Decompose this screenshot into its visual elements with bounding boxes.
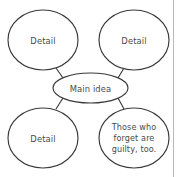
- connector-main-to-bottom-right: [118, 98, 124, 109]
- connector-main-to-top-right: [118, 68, 124, 78]
- node-detail-top-right[interactable]: Detail: [99, 10, 169, 70]
- main-idea-label: Main idea: [70, 84, 111, 94]
- detail-top-left-label: Detail: [30, 36, 55, 46]
- detail-bottom-right-line-3: guilty, too.: [112, 144, 157, 154]
- node-detail-top-left[interactable]: Detail: [8, 10, 78, 70]
- detail-bottom-right-line-2: forget are: [114, 133, 155, 143]
- connector-main-to-top-left: [56, 68, 63, 78]
- node-main-idea[interactable]: Main idea: [53, 73, 128, 103]
- detail-bottom-right-line-1: Those who: [111, 122, 156, 132]
- main-idea-web-diagram: Detail Detail Main idea Detail Those who…: [0, 0, 181, 177]
- web-diagram-canvas: Detail Detail Main idea Detail Those who…: [0, 0, 181, 177]
- node-detail-bottom-left[interactable]: Detail: [8, 108, 78, 168]
- detail-top-right-label: Detail: [121, 36, 146, 46]
- detail-bottom-left-label: Detail: [30, 134, 55, 144]
- connector-main-to-bottom-left: [56, 98, 63, 109]
- node-detail-bottom-right[interactable]: Those who forget are guilty, too.: [99, 108, 169, 168]
